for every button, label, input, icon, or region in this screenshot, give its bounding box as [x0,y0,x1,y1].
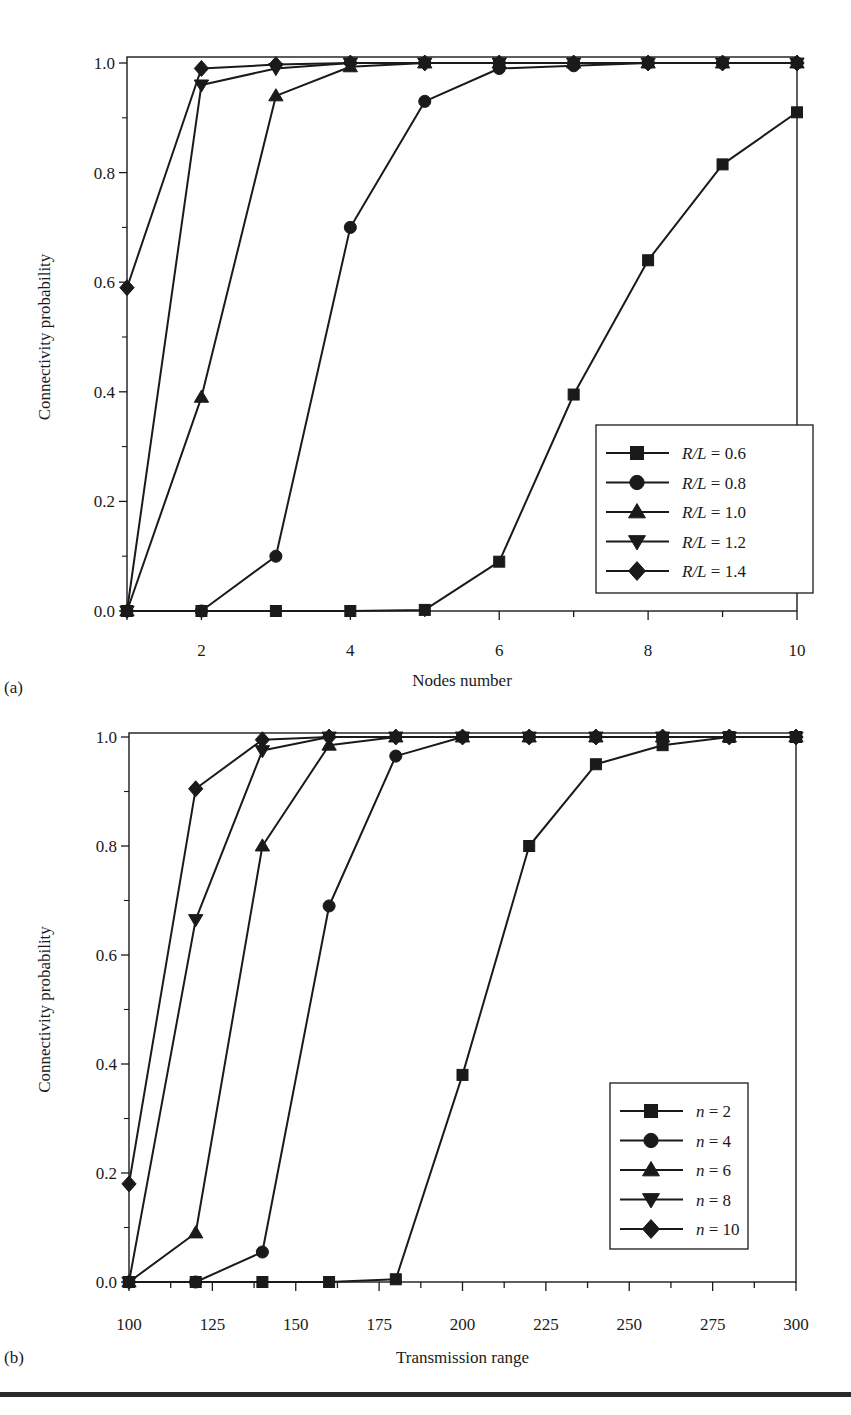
data-point-square-icon [717,159,728,170]
x-axis: 100125150175200225250275300Transmission … [116,1282,809,1367]
y-axis: 0.00.20.40.60.81.0Connectivity probabili… [35,728,129,1292]
legend-label: R/L = 0.8 [681,474,746,493]
data-point-diamond-icon [194,61,208,77]
data-point-circle-icon [323,900,335,912]
x-tick-label: 300 [783,1315,809,1334]
data-point-diamond-icon [589,729,603,745]
y-tick-label: 1.0 [94,54,115,73]
legend: n = 2n = 4n = 6n = 8n = 10 [610,1083,748,1249]
legend-label: n = 8 [696,1191,731,1210]
data-point-square-icon [494,556,505,567]
y-axis: 0.00.20.40.60.81.0Connectivity probabili… [35,54,127,621]
data-point-square-icon [792,107,803,118]
data-point-circle-icon [344,221,356,233]
y-tick-label: 0.4 [94,383,116,402]
data-point-circle-icon [390,750,402,762]
data-point-triangle-up-icon [194,390,208,402]
x-tick-label: 150 [283,1315,309,1334]
x-axis: 246810Nodes number [127,611,806,690]
y-tick-label: 1.0 [96,728,117,747]
legend-label: n = 6 [696,1161,731,1180]
bottom-rule-divider [0,1392,851,1397]
legend-circle-icon [644,1133,658,1147]
legend: R/L = 0.6R/L = 0.8R/L = 1.0R/L = 1.2R/L … [596,425,813,593]
data-point-diamond-icon [322,729,336,745]
data-point-square-icon [345,606,356,617]
data-point-circle-icon [190,1276,202,1288]
legend-square-icon [645,1105,658,1118]
x-tick-label: 125 [200,1315,226,1334]
x-tick-label: 4 [346,641,355,660]
x-tick-label: 6 [495,641,504,660]
data-point-diamond-icon [389,729,403,745]
y-axis-label: Connectivity probability [35,926,54,1093]
data-point-diamond-icon [189,781,203,797]
data-point-triangle-up-icon [189,1226,203,1238]
x-tick-label: 275 [700,1315,726,1334]
legend-label: n = 10 [696,1220,740,1239]
legend-label: R/L = 1.2 [681,533,746,552]
y-tick-label: 0.8 [96,837,117,856]
data-point-square-icon [419,604,430,615]
y-tick-label: 0.2 [94,492,115,511]
data-point-square-icon [568,389,579,400]
data-point-square-icon [324,1277,335,1288]
y-tick-label: 0.8 [94,164,115,183]
data-point-square-icon [270,606,281,617]
data-point-triangle-up-icon [255,839,269,851]
legend-label: R/L = 1.4 [681,562,746,581]
series-line [127,63,797,288]
data-point-diamond-icon [522,729,536,745]
data-point-diamond-icon [455,729,469,745]
legend-label: R/L = 1.0 [681,503,746,522]
x-tick-label: 250 [617,1315,643,1334]
data-point-square-icon [457,1069,468,1080]
data-point-square-icon [524,841,535,852]
chart-panel-a: 0.00.20.40.60.81.0Connectivity probabili… [4,54,813,697]
y-tick-label: 0.6 [96,946,117,965]
y-tick-label: 0.0 [94,602,115,621]
x-tick-label: 2 [197,641,206,660]
data-point-square-icon [257,1277,268,1288]
data-point-square-icon [390,1274,401,1285]
data-point-triangle-down-icon [189,915,203,927]
data-point-circle-icon [270,550,282,562]
legend-circle-icon [630,475,644,489]
data-point-square-icon [590,759,601,770]
y-tick-label: 0.4 [96,1055,118,1074]
y-axis-label: Connectivity probability [35,253,54,420]
legend-label: n = 2 [696,1102,731,1121]
legend-label: R/L = 0.6 [681,444,746,463]
data-point-diamond-icon [122,1176,136,1192]
y-tick-label: 0.0 [96,1273,117,1292]
data-point-circle-icon [419,95,431,107]
panel-label: (a) [4,678,23,697]
data-point-square-icon [643,255,654,266]
x-axis-label: Nodes number [412,671,512,690]
x-tick-label: 8 [644,641,653,660]
x-tick-label: 225 [533,1315,559,1334]
x-tick-label: 175 [366,1315,392,1334]
series-diamond [120,55,804,296]
data-point-circle-icon [256,1246,268,1258]
figure: 0.00.20.40.60.81.0Connectivity probabili… [0,0,851,1415]
y-tick-label: 0.2 [96,1164,117,1183]
legend-label: n = 4 [696,1132,732,1151]
legend-square-icon [631,447,644,460]
x-tick-label: 200 [450,1315,476,1334]
data-point-circle-icon [195,605,207,617]
connectivity-figure: 0.00.20.40.60.81.0Connectivity probabili… [0,0,851,1415]
chart-panel-b: 0.00.20.40.60.81.0Connectivity probabili… [4,728,809,1367]
y-tick-label: 0.6 [94,273,115,292]
x-axis-label: Transmission range [396,1348,529,1367]
x-tick-label: 100 [116,1315,142,1334]
x-tick-label: 10 [789,641,806,660]
panel-label: (b) [4,1348,24,1367]
